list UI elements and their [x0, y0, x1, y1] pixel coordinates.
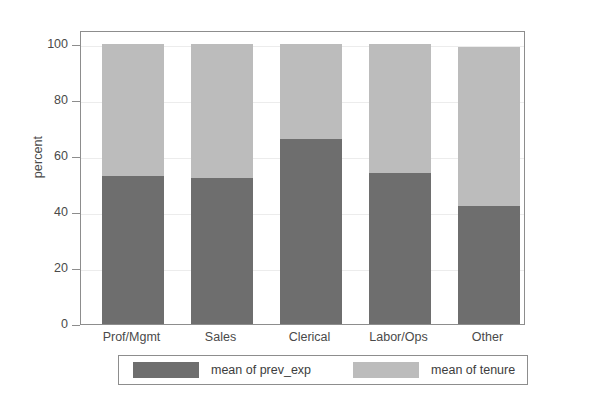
y-tick-label: 0 [28, 318, 68, 332]
bar-segment-tenure [191, 44, 253, 178]
bar-stack [191, 44, 253, 324]
y-tick-label-text: 0 [34, 318, 68, 331]
y-tick-label: 60 [28, 150, 68, 164]
legend-swatch-tenure [353, 362, 419, 378]
y-tick [72, 213, 80, 214]
y-tick [72, 325, 80, 326]
legend-swatch-prev-exp [133, 362, 199, 378]
y-tick-label-text: 20 [34, 262, 68, 275]
bar-stack [102, 44, 164, 324]
legend-item-tenure: mean of tenure [353, 362, 515, 378]
legend-label-prev-exp: mean of prev_exp [211, 363, 311, 377]
y-tick [72, 45, 80, 46]
bar-segment-prev-exp [191, 178, 253, 324]
y-tick-label-text: 60 [34, 150, 68, 163]
y-tick-label: 80 [28, 94, 68, 108]
bar-stack [458, 47, 520, 324]
y-tick-label: 40 [28, 206, 68, 220]
y-tick-label: 20 [28, 262, 68, 276]
bar-segment-prev-exp [458, 206, 520, 324]
y-tick-label-text: 40 [34, 206, 68, 219]
stacked-bar-chart-figure: percent 020406080100 Prof/MgmtSalesCleri… [0, 0, 604, 396]
y-tick-label-text: 100 [34, 38, 68, 51]
y-tick [72, 101, 80, 102]
y-tick-label: 100 [28, 38, 68, 52]
legend: mean of prev_exp mean of tenure [118, 355, 528, 385]
x-tick-label: Other [428, 330, 548, 344]
y-tick [72, 269, 80, 270]
bar-segment-prev-exp [369, 173, 431, 324]
legend-item-prev-exp: mean of prev_exp [133, 362, 311, 378]
y-tick [72, 157, 80, 158]
bar-stack [280, 44, 342, 324]
bar-segment-tenure [102, 44, 164, 176]
legend-label-tenure: mean of tenure [431, 363, 515, 377]
bar-segment-tenure [458, 47, 520, 207]
y-tick-label-text: 80 [34, 94, 68, 107]
bar-segment-tenure [280, 44, 342, 139]
bar-segment-prev-exp [102, 176, 164, 324]
bar-stack [369, 44, 431, 324]
bar-segment-prev-exp [280, 139, 342, 324]
plot-area [80, 31, 525, 325]
bar-segment-tenure [369, 44, 431, 173]
